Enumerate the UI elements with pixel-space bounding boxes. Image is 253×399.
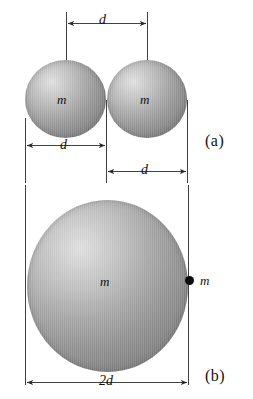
panel-label-a: (a)	[205, 133, 224, 149]
mass-label-a-right: m	[140, 93, 149, 106]
mass-label-b-point: m	[200, 274, 209, 287]
dimension-label-sphere-diameter: d	[60, 138, 67, 152]
dimension-label-large-diameter: 2d	[99, 374, 113, 388]
dimension-label-center-separation: d	[99, 13, 106, 27]
dimension-label-right-sphere-diameter: d	[141, 163, 148, 177]
point-mass-dot	[185, 276, 194, 285]
mass-label-a-left: m	[57, 93, 66, 106]
physics-figure: m m m m d d d 2d (a) (b)	[0, 0, 253, 399]
panel-label-b: (b)	[205, 368, 225, 384]
mass-label-b-center: m	[100, 275, 109, 288]
